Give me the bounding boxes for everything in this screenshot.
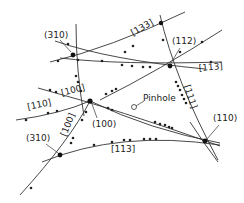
label-pole-100: (100)	[92, 119, 116, 129]
pole-110	[203, 139, 208, 144]
pinhole-marker	[132, 105, 137, 110]
pole-133	[159, 21, 163, 25]
label-pole-112: (112)	[172, 36, 196, 46]
label-zone-111: [111]	[182, 84, 199, 110]
pole-310-lower	[58, 153, 63, 158]
label-zone-133: [133]	[129, 17, 155, 38]
label-zone-113-lower: [113]	[111, 144, 135, 154]
label-pole-310-lower: (310)	[26, 133, 50, 143]
zone-line-133	[50, 12, 185, 62]
label-zone-100-lower: [100]	[59, 112, 77, 138]
zone-diagram: (310) (112) (100) (310) (110) [133] [113…	[0, 0, 244, 203]
zone-line-100-lower	[20, 101, 90, 195]
label-zone-113-upper: [113]	[198, 61, 223, 73]
zone-line-310-100	[76, 24, 84, 116]
label-pole-110: (110)	[213, 113, 237, 123]
label-pole-310-upper: (310)	[44, 30, 68, 40]
pole-112	[168, 64, 173, 69]
pole-310-upper	[71, 53, 76, 58]
label-zone-100-upper: [100]	[60, 82, 86, 98]
label-zone-110: [110]	[26, 97, 52, 112]
label-pinhole: Pinhole	[143, 93, 176, 103]
pole-100	[87, 98, 92, 103]
